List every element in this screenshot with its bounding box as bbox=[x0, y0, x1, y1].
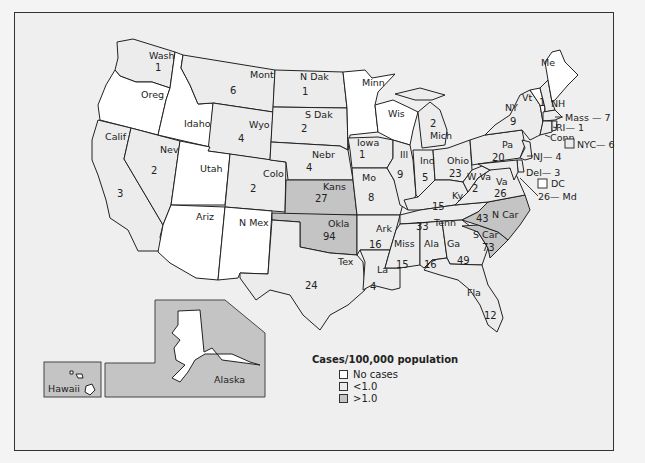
value-wash: 1 bbox=[155, 62, 161, 73]
value-ohio: 23 bbox=[449, 168, 462, 179]
value-scar: 73 bbox=[482, 242, 495, 253]
label-pa: Pa bbox=[502, 139, 513, 150]
label-mont: Mont bbox=[250, 69, 274, 80]
legend-title: Cases/100,000 population bbox=[312, 354, 458, 365]
legend-item-high: >1.0 bbox=[339, 392, 458, 404]
label-la: La bbox=[377, 264, 388, 275]
legend-swatch-high bbox=[339, 394, 348, 403]
label-dc: DC bbox=[551, 178, 565, 189]
value-ndak: 1 bbox=[302, 86, 308, 97]
label-nmex: N Mex bbox=[239, 217, 269, 228]
label-fla: Fla bbox=[467, 287, 481, 298]
value-ky: 15 bbox=[432, 201, 445, 212]
label-wis: Wis bbox=[388, 108, 405, 119]
label-mich: Mich bbox=[430, 130, 452, 141]
label-wash: Wash bbox=[149, 50, 175, 61]
label-miss: Miss bbox=[394, 238, 415, 249]
value-ncar: 43 bbox=[476, 213, 489, 224]
legend-swatch-none bbox=[339, 370, 348, 379]
value-tenn: 33 bbox=[416, 221, 429, 232]
label-vt: Vt bbox=[522, 92, 532, 103]
label-scar: S Car bbox=[473, 229, 499, 240]
value-nh: 1 bbox=[539, 97, 545, 108]
value-kans: 27 bbox=[315, 193, 328, 204]
label-nebr: Nebr bbox=[312, 149, 335, 160]
state-wyo[interactable] bbox=[208, 103, 273, 160]
dc-swatch bbox=[538, 179, 547, 188]
label-tenn: Tenn bbox=[433, 217, 456, 228]
value-miss: 15 bbox=[396, 259, 409, 270]
legend-item-low: <1.0 bbox=[339, 380, 458, 392]
label-ga: Ga bbox=[447, 238, 460, 249]
label-hawaii: Hawaii bbox=[48, 383, 80, 394]
label-va: Va bbox=[496, 176, 508, 187]
label-oreg: Oreg bbox=[141, 89, 164, 100]
value-wva: 2 bbox=[472, 183, 478, 194]
legend-label-low: <1.0 bbox=[353, 381, 377, 392]
label-mo: Mo bbox=[362, 172, 376, 183]
label-ind: Ind bbox=[420, 155, 435, 166]
label-minn: Minn bbox=[362, 77, 385, 88]
value-ark: 16 bbox=[369, 239, 382, 250]
value-wyo: 4 bbox=[238, 133, 244, 144]
label-calif: Calif bbox=[105, 131, 127, 142]
label-sdak: S Dak bbox=[305, 109, 333, 120]
label-ark: Ark bbox=[376, 223, 392, 234]
label-idaho: Idaho bbox=[184, 118, 211, 129]
label-ny: NY bbox=[505, 102, 518, 113]
value-pa: 20 bbox=[492, 152, 505, 163]
value-ala: 16 bbox=[424, 259, 437, 270]
legend: Cases/100,000 population No cases <1.0 >… bbox=[312, 354, 458, 404]
value-okla: 94 bbox=[323, 231, 336, 242]
value-nebr: 4 bbox=[306, 162, 312, 173]
value-mo: 8 bbox=[368, 192, 374, 203]
label-del: Del— 3 bbox=[526, 167, 560, 178]
label-nyc: NYC— 6 bbox=[577, 139, 615, 150]
label-colo: Colo bbox=[263, 168, 284, 179]
value-tex: 24 bbox=[305, 280, 318, 291]
label-md: 26— Md bbox=[538, 191, 577, 202]
label-nj: NJ— 4 bbox=[533, 151, 561, 162]
label-ala: Ala bbox=[424, 238, 439, 249]
nyc-swatch bbox=[565, 139, 574, 148]
label-iowa: Iowa bbox=[357, 137, 379, 148]
value-calif: 3 bbox=[117, 188, 123, 199]
value-nev: 2 bbox=[151, 165, 157, 176]
value-mont: 6 bbox=[230, 85, 236, 96]
value-fla: 12 bbox=[484, 310, 497, 321]
legend-label-none: No cases bbox=[353, 369, 398, 380]
label-ky: Ky bbox=[452, 190, 464, 201]
label-wva: W Va bbox=[467, 171, 491, 182]
label-ncar: N Car bbox=[492, 209, 519, 220]
value-mich: 2 bbox=[430, 118, 436, 129]
label-nh: NH bbox=[551, 98, 565, 109]
value-ga: 49 bbox=[457, 255, 470, 266]
label-ariz: Ariz bbox=[196, 211, 214, 222]
value-la: 4 bbox=[370, 281, 376, 292]
value-ill: 9 bbox=[397, 169, 403, 180]
label-kans: Kans bbox=[323, 181, 346, 192]
value-colo: 2 bbox=[250, 183, 256, 194]
label-ill: Ill bbox=[400, 149, 408, 160]
label-okla: Okla bbox=[328, 218, 349, 229]
legend-swatch-low bbox=[339, 382, 348, 391]
value-ny: 9 bbox=[510, 116, 516, 127]
label-utah: Utah bbox=[200, 163, 223, 174]
value-iowa: 1 bbox=[359, 149, 365, 160]
label-wyo: Wyo bbox=[249, 119, 270, 130]
label-nev: Nev bbox=[160, 144, 179, 155]
state-ariz[interactable] bbox=[158, 205, 225, 280]
legend-item-none: No cases bbox=[339, 368, 458, 380]
legend-label-high: >1.0 bbox=[353, 393, 377, 404]
value-ind: 5 bbox=[422, 172, 428, 183]
label-ndak: N Dak bbox=[300, 71, 329, 82]
label-me: Me bbox=[541, 57, 555, 68]
value-va: 26 bbox=[494, 188, 507, 199]
label-tex: Tex bbox=[337, 256, 354, 267]
label-ohio: Ohio bbox=[447, 155, 469, 166]
state-mass[interactable] bbox=[543, 110, 562, 121]
label-alaska: Alaska bbox=[214, 374, 245, 385]
value-sdak: 2 bbox=[301, 123, 307, 134]
